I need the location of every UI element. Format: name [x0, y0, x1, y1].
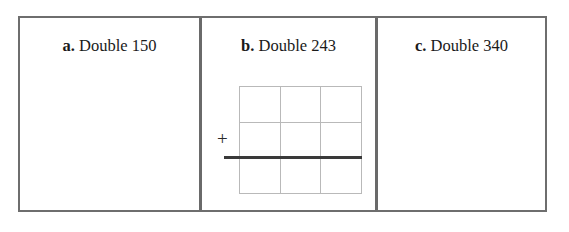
grid-cell[interactable] — [321, 87, 362, 123]
problem-cell-b[interactable]: b. Double 243 + — [199, 18, 378, 210]
problem-label-b: b. — [241, 36, 254, 55]
grid-cell[interactable] — [321, 158, 362, 194]
problem-cell-c[interactable]: c. Double 340 — [378, 18, 545, 210]
problem-text-c: Double 340 — [431, 36, 508, 55]
grid-cell[interactable] — [240, 123, 281, 159]
problem-label-a: a. — [63, 36, 75, 55]
problem-cell-a[interactable]: a. Double 150 — [20, 18, 199, 210]
grid-cell[interactable] — [240, 87, 281, 123]
plus-icon: + — [217, 129, 228, 148]
grid-cell[interactable] — [240, 158, 281, 194]
problem-text-b: Double 243 — [258, 36, 335, 55]
worksheet-frame: a. Double 150 b. Double 243 + — [18, 16, 547, 212]
grid-cell[interactable] — [281, 123, 322, 159]
answer-line — [224, 156, 362, 159]
problem-text-a: Double 150 — [79, 36, 156, 55]
problem-label-c: c. — [415, 36, 426, 55]
problem-prompt-b: b. Double 243 — [202, 38, 375, 55]
grid-cell[interactable] — [321, 123, 362, 159]
grid-cell[interactable] — [281, 87, 322, 123]
place-value-grid — [239, 86, 362, 194]
problem-prompt-c: c. Double 340 — [378, 38, 545, 55]
problem-prompt-a: a. Double 150 — [20, 38, 199, 55]
place-value-grid-wrapper — [239, 86, 362, 194]
grid-cell[interactable] — [281, 158, 322, 194]
